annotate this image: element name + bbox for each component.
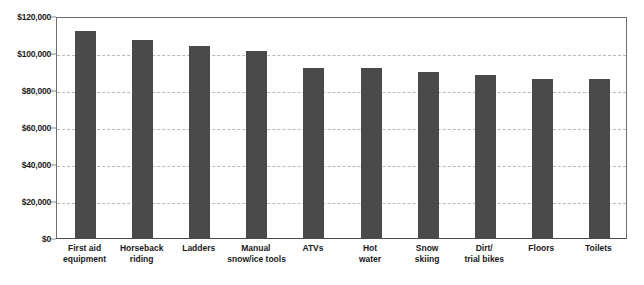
bar-slot	[228, 18, 285, 238]
bar-slot	[171, 18, 228, 238]
x-axis-category-label: Toilets	[570, 243, 627, 254]
y-axis-tick	[51, 239, 56, 240]
bar[interactable]	[475, 75, 496, 238]
bar-slot	[571, 18, 628, 238]
bar[interactable]	[246, 51, 267, 238]
x-axis-category-label: First aidequipment	[56, 243, 113, 264]
bar[interactable]	[532, 79, 553, 238]
bar-slot	[457, 18, 514, 238]
bar-slot	[343, 18, 400, 238]
bar[interactable]	[132, 40, 153, 238]
x-axis-category-label: Horsebackriding	[113, 243, 170, 264]
x-axis-category-label: Floors	[513, 243, 570, 254]
x-axis-category-label: Manualsnow/ice tools	[227, 243, 284, 264]
x-axis-category-label: Dirt/trial bikes	[456, 243, 513, 264]
bar-slot	[285, 18, 342, 238]
y-axis-tick	[51, 54, 56, 55]
bar-slot	[114, 18, 171, 238]
bar-slot	[400, 18, 457, 238]
x-axis-category-label: Snowskiing	[399, 243, 456, 264]
bar[interactable]	[75, 31, 96, 238]
y-axis-tick-label: $0	[0, 234, 51, 244]
bar-slot	[57, 18, 114, 238]
plot-area	[56, 17, 627, 239]
y-axis-tick	[51, 91, 56, 92]
y-axis-tick-label: $120,000	[0, 12, 51, 22]
x-axis-category-label: Ladders	[170, 243, 227, 254]
y-axis-tick	[51, 165, 56, 166]
y-axis-tick	[51, 128, 56, 129]
bar[interactable]	[589, 79, 610, 238]
x-axis-category-label: ATVs	[284, 243, 341, 254]
y-axis-labels: $0$20,000$40,000$60,000$80,000$100,000$1…	[0, 0, 51, 285]
bar[interactable]	[418, 72, 439, 239]
y-axis-tick-label: $100,000	[0, 49, 51, 59]
x-axis-category-label: Hotwater	[342, 243, 399, 264]
x-axis-labels: First aidequipmentHorsebackridingLadders…	[56, 243, 627, 285]
bar[interactable]	[303, 68, 324, 238]
y-axis-tick-label: $60,000	[0, 123, 51, 133]
bar[interactable]	[189, 46, 210, 238]
y-axis-tick-label: $80,000	[0, 86, 51, 96]
bars	[57, 18, 626, 238]
bar-chart: $0$20,000$40,000$60,000$80,000$100,000$1…	[0, 0, 644, 285]
y-axis-tick-label: $40,000	[0, 160, 51, 170]
bar[interactable]	[361, 68, 382, 238]
y-axis-tick	[51, 202, 56, 203]
bar-slot	[514, 18, 571, 238]
y-axis-tick	[51, 17, 56, 18]
y-axis-tick-label: $20,000	[0, 197, 51, 207]
